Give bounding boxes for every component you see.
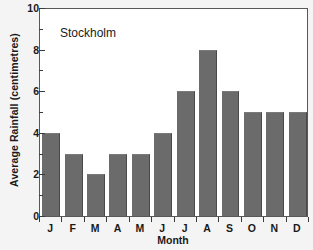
y-axis-tick-major	[39, 174, 45, 175]
x-axis-tick	[308, 217, 309, 222]
y-axis-tick-major	[39, 8, 45, 9]
y-axis-tick-label: 10	[13, 2, 39, 14]
x-axis-tick-label: J	[174, 222, 196, 234]
bar	[289, 112, 307, 216]
bar	[199, 50, 217, 216]
y-axis-tick-label: 2	[13, 168, 39, 180]
y-axis-tick-minor	[39, 154, 43, 155]
y-axis-tick-label: 6	[13, 85, 39, 97]
bar	[87, 174, 105, 216]
y-axis-tick-minor	[39, 70, 43, 71]
y-axis-tick-minor	[39, 29, 43, 30]
x-axis-tick-label: S	[219, 222, 241, 234]
x-axis-tick-label: A	[106, 222, 128, 234]
y-axis-tick-major	[39, 133, 45, 134]
x-axis-tick-label: A	[196, 222, 218, 234]
y-axis-tick-label: 0	[13, 210, 39, 222]
bar	[109, 154, 127, 216]
x-axis-tick-label: O	[241, 222, 263, 234]
y-axis-tick-minor	[39, 112, 43, 113]
x-axis-tick-label: J	[39, 222, 61, 234]
x-axis-tick-label: M	[84, 222, 106, 234]
y-axis-tick-major	[39, 91, 45, 92]
bar	[132, 154, 150, 216]
bar	[266, 112, 284, 216]
x-axis-title: Month	[42, 234, 304, 246]
bar	[65, 154, 83, 216]
y-axis-tick-label: 8	[13, 44, 39, 56]
plot-title: Stockholm	[60, 26, 116, 40]
x-axis-tick-label: J	[151, 222, 173, 234]
bar	[244, 112, 262, 216]
x-axis-tick-label: F	[62, 222, 84, 234]
x-axis-tick-label: N	[263, 222, 285, 234]
x-axis-tick-label: M	[129, 222, 151, 234]
bar	[154, 133, 172, 216]
bar	[177, 91, 195, 216]
y-axis-tick-label: 4	[13, 127, 39, 139]
x-axis-tick-label: D	[286, 222, 308, 234]
y-axis-ticks: 0246810	[0, 0, 39, 250]
bar-chart: Average Rainfall (centimetres) 0246810 S…	[0, 0, 313, 250]
bar	[222, 91, 240, 216]
y-axis-tick-major	[39, 50, 45, 51]
y-axis-tick-minor	[39, 195, 43, 196]
